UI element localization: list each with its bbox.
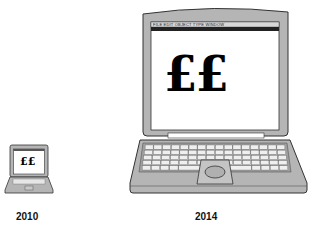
year-label-2010: 2010 [16,211,38,222]
illustration [0,0,313,231]
small-screen-pound-text: ££ [20,155,35,168]
menu-bar-text: FILE EDIT OBJECT TYPE WINDOW [153,22,224,27]
large-screen-pound-text: ££ [164,46,227,102]
small-laptop-icon [5,145,53,193]
year-label-2014: 2014 [195,211,217,222]
